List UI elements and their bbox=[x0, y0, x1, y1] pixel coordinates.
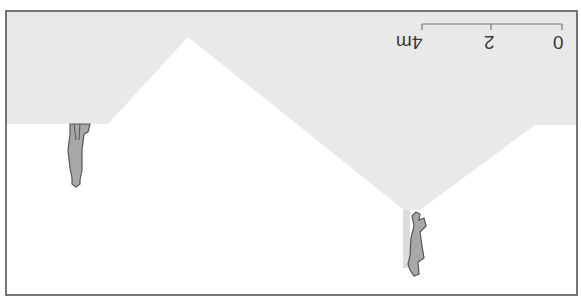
scale-label-4m: 4m bbox=[396, 33, 422, 52]
person-figure-right bbox=[408, 212, 426, 276]
scale-label-2: 2 bbox=[484, 33, 495, 52]
diagram: 0 2 4m bbox=[0, 0, 581, 300]
scale-label-0: 0 bbox=[553, 33, 564, 52]
